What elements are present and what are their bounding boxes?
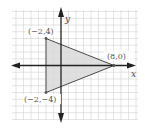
y-axis-up-arrow-icon xyxy=(58,7,64,17)
vertex-point-right xyxy=(113,64,116,67)
y-axis-down-arrow-icon xyxy=(58,113,64,123)
x-axis-left-arrow-icon xyxy=(11,63,20,69)
y-axis-label: y xyxy=(64,14,71,24)
vertex-label-right: (8,0) xyxy=(107,52,126,61)
vertex-point-top xyxy=(45,37,48,40)
x-axis-right-arrow-icon xyxy=(127,63,136,69)
vertex-label-bottom: (−2,−4) xyxy=(24,95,56,104)
vertex-point-bottom xyxy=(45,91,48,94)
vertex-label-top: (−2,4) xyxy=(28,27,54,36)
x-axis-label: x xyxy=(131,69,136,79)
coordinate-plane-figure: (−2,4) (8,0) (−2,−4) y x xyxy=(0,0,145,128)
